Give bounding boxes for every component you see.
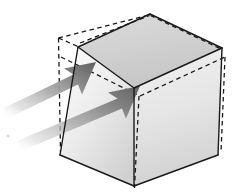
figure-root (0, 0, 235, 192)
hidden-edge-back-top-left (59, 38, 80, 47)
scan-speck (6, 134, 9, 137)
cube-diagram (0, 0, 235, 192)
